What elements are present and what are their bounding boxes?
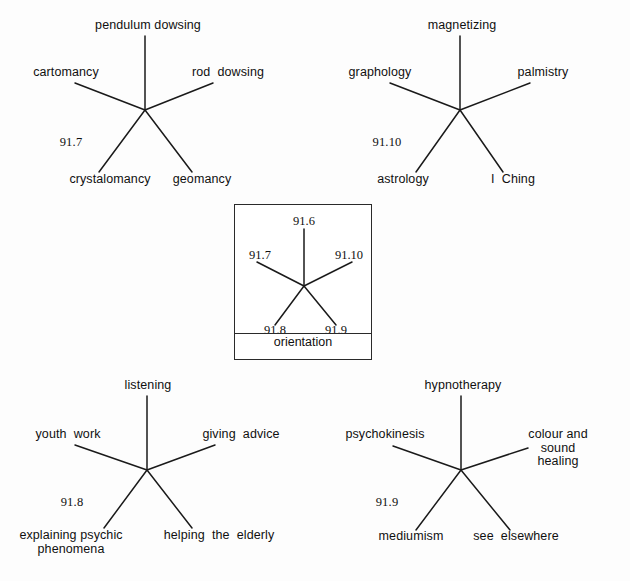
spoke-label-top: magnetizing <box>428 19 497 33</box>
spoke-label-lower-left: astrology <box>377 173 429 187</box>
spoke-line-upper-right <box>147 445 215 470</box>
star-diagram-91-7: pendulum dowsing cartomancy rod dowsing … <box>0 0 300 195</box>
spoke-label-lower-left: mediumism <box>379 530 444 544</box>
star-diagram-91-9: hypnotherapy psychokinesis colour and so… <box>315 370 630 581</box>
spoke-line-upper-right <box>145 83 213 110</box>
key-caption: orientation <box>235 335 371 349</box>
spoke-line-lower-left <box>104 470 147 528</box>
spoke-label-lower-right: see elsewhere <box>473 530 558 544</box>
spoke-label-upper-left: youth work <box>35 428 100 442</box>
spoke-label-upper-right: colour and sound healing <box>522 428 594 469</box>
spoke-label-upper-right: giving advice <box>202 428 279 442</box>
spoke-label-top: hypnotherapy <box>425 379 502 393</box>
spoke-line-lower-right <box>461 470 510 530</box>
spoke-label-upper-left: psychokinesis <box>345 428 424 442</box>
diagram-ref-91-9: 91.9 <box>376 495 399 510</box>
spoke-line-upper-right <box>461 448 528 470</box>
spoke-line-upper-left <box>75 83 145 110</box>
key-spoke-line-upper-left <box>257 262 304 286</box>
key-spoke-label-upper-right: 91.10 <box>335 248 363 263</box>
star-spokes-91-9 <box>315 370 630 581</box>
spoke-line-upper-left <box>75 445 147 470</box>
key-spoke-line-lower-left <box>275 286 304 325</box>
spoke-line-lower-right <box>147 470 192 528</box>
key-spoke-line-lower-right <box>304 286 336 325</box>
spoke-label-upper-left: graphology <box>349 66 412 80</box>
key-spoke-label-upper-left: 91.7 <box>249 248 271 263</box>
orientation-key-box: 91.6 91.7 91.10 91.8 91.9 orientation <box>234 204 372 360</box>
spoke-label-upper-right: rod dowsing <box>192 66 264 80</box>
spoke-label-top: listening <box>125 379 172 393</box>
spoke-label-lower-left: crystalomancy <box>69 173 150 187</box>
diagram-ref-91-7: 91.7 <box>60 135 83 150</box>
spoke-line-upper-left <box>393 446 461 470</box>
spoke-line-lower-left <box>416 470 461 530</box>
spoke-label-lower-left: explaining psychic phenomena <box>19 529 122 556</box>
key-spoke-label-top: 91.6 <box>293 214 315 229</box>
spoke-line-lower-left <box>416 110 460 172</box>
spoke-line-lower-right <box>460 110 503 172</box>
diagram-ref-91-8: 91.8 <box>61 495 84 510</box>
spoke-line-lower-right <box>145 110 192 172</box>
spoke-label-lower-right: geomancy <box>173 173 231 187</box>
key-spoke-line-upper-right <box>304 262 352 286</box>
spoke-label-lower-right: helping the elderly <box>164 529 275 543</box>
spoke-line-upper-left <box>390 83 460 110</box>
star-diagram-91-10: magnetizing graphology palmistry astrolo… <box>315 0 630 195</box>
star-diagram-91-8: listening youth work giving advice expla… <box>0 370 315 581</box>
spoke-label-upper-left: cartomancy <box>33 66 99 80</box>
spoke-label-top: pendulum dowsing <box>95 19 201 33</box>
spoke-label-lower-right: I Ching <box>491 173 535 187</box>
figure-canvas: pendulum dowsing cartomancy rod dowsing … <box>0 0 630 581</box>
spoke-line-lower-left <box>99 110 145 172</box>
spoke-line-upper-right <box>460 83 530 110</box>
spoke-label-upper-right: palmistry <box>518 66 569 80</box>
key-divider <box>235 333 371 334</box>
diagram-ref-91-10: 91.10 <box>372 135 401 150</box>
